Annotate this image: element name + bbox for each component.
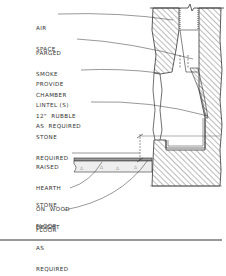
label-height: HEIGHT AS REQUIRED (36, 210, 69, 276)
flue-liner (180, 8, 198, 30)
firebox (166, 118, 205, 148)
left-masonry-wall (152, 8, 179, 140)
